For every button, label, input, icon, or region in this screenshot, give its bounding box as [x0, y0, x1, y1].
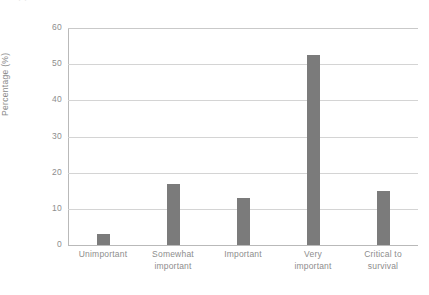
y-axis-tick-label: 20 [28, 168, 62, 177]
bar [237, 198, 250, 245]
y-axis-tick-label: 10 [28, 204, 62, 213]
gridline [68, 100, 418, 101]
y-axis-tick-label: 50 [28, 59, 62, 68]
bar [97, 234, 110, 245]
gridline [68, 64, 418, 65]
gridline [68, 28, 418, 29]
y-axis-tick-label: 40 [28, 95, 62, 104]
cropped-text-remnant: · · [0, 0, 429, 7]
gridline [68, 173, 418, 174]
bar-chart-figure: · · Percentage (%) 0102030405060 Unimpor… [0, 0, 429, 295]
y-axis-title: Percentage (%) [0, 0, 14, 116]
bar [377, 191, 390, 245]
gridline [68, 137, 418, 138]
x-axis-tick-label: Unimportant [68, 249, 138, 261]
y-axis-tick-label: 0 [28, 240, 62, 249]
plot-area [68, 28, 418, 245]
x-axis-line [68, 245, 418, 246]
y-axis-tick-label: 30 [28, 132, 62, 141]
x-axis-tick-label: Critical to survival [348, 249, 418, 272]
x-axis-tick-label: Somewhat important [138, 249, 208, 272]
x-axis-tick-label: Important [208, 249, 278, 261]
y-axis-tick-labels: 0102030405060 [26, 0, 62, 295]
y-axis-tick-label: 60 [28, 23, 62, 32]
bar [167, 184, 180, 245]
bar [307, 55, 320, 245]
x-axis-tick-label: Very important [278, 249, 348, 272]
x-axis-tick-labels: UnimportantSomewhat importantImportantVe… [68, 249, 418, 295]
